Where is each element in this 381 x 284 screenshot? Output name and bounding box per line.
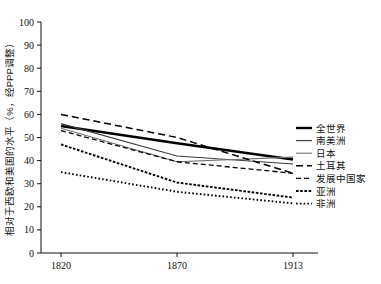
y-tick-label: 10 xyxy=(24,224,34,235)
x-tick-label: 1870 xyxy=(167,260,187,271)
y-axis-title: 相对于西欧和美国的水平（%，经PPP调整） xyxy=(4,38,15,235)
line-chart: 1009080706050403020100182018701913相对于西欧和… xyxy=(0,0,381,284)
axes-group xyxy=(41,22,318,253)
legend: 全世界南美洲日本土耳其发展中国家亚洲非洲 xyxy=(296,123,366,210)
legend-label-1: 南美洲 xyxy=(316,135,346,146)
series-group xyxy=(61,114,293,203)
y-tick-label: 70 xyxy=(24,86,34,97)
x-axis-ticks: 182018701913 xyxy=(51,253,303,271)
y-tick-label: 100 xyxy=(19,17,34,28)
series-line-6 xyxy=(61,172,293,203)
y-axis-ticks: 1009080706050403020100 xyxy=(19,17,41,259)
y-tick-label: 90 xyxy=(24,40,34,51)
y-tick-label: 40 xyxy=(24,155,34,166)
series-line-5 xyxy=(61,144,293,197)
legend-label-2: 日本 xyxy=(316,148,336,159)
y-tick-label: 30 xyxy=(24,178,34,189)
legend-label-5: 亚洲 xyxy=(316,186,336,197)
series-line-4 xyxy=(61,131,293,174)
legend-label-0: 全世界 xyxy=(316,123,346,134)
y-tick-label: 50 xyxy=(24,132,34,143)
series-line-0 xyxy=(61,126,293,159)
chart-container: 1009080706050403020100182018701913相对于西欧和… xyxy=(0,0,381,284)
legend-label-3: 土耳其 xyxy=(316,160,346,171)
y-tick-label: 0 xyxy=(29,248,34,259)
x-tick-label: 1820 xyxy=(51,260,71,271)
x-tick-label: 1913 xyxy=(283,260,303,271)
y-tick-label: 20 xyxy=(24,201,34,212)
y-tick-label: 80 xyxy=(24,63,34,74)
legend-label-4: 发展中国家 xyxy=(316,173,366,184)
y-tick-label: 60 xyxy=(24,109,34,120)
legend-label-6: 非洲 xyxy=(316,198,336,209)
